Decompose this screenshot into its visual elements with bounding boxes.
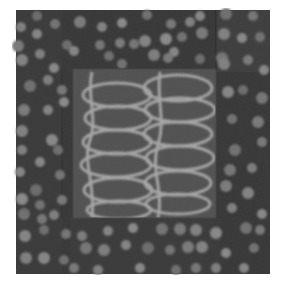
polka-dot (210, 227, 222, 239)
polka-dot (227, 114, 237, 124)
polka-dot (259, 65, 269, 75)
polka-dot (115, 38, 125, 48)
polka-dot (20, 252, 32, 264)
polka-dot (243, 55, 253, 65)
polka-dot (218, 58, 230, 70)
polka-dot (171, 265, 181, 275)
polka-dot (257, 137, 267, 147)
polka-dot (35, 49, 45, 59)
polka-dot (43, 105, 53, 115)
polka-dot (117, 59, 127, 69)
polka-dot (32, 11, 42, 21)
polka-dot (247, 163, 257, 173)
polka-dot (224, 164, 236, 176)
polka-dot (24, 80, 36, 92)
polka-dot (98, 244, 110, 256)
polka-dot (35, 200, 45, 210)
polka-dot (238, 85, 248, 95)
polka-dot (196, 241, 208, 253)
polka-dot (17, 145, 27, 155)
polka-dot (229, 144, 241, 156)
polka-dot (148, 49, 160, 61)
polka-dot (104, 51, 114, 61)
polka-dot (255, 32, 265, 42)
polka-dot (242, 187, 254, 199)
polka-dot (163, 53, 173, 63)
polka-dot (35, 157, 45, 167)
polka-dot (174, 223, 186, 235)
polka-dot (37, 214, 47, 224)
polka-dot (166, 19, 176, 29)
polka-dot (38, 252, 50, 264)
polka-dot (139, 35, 151, 47)
polka-dot (255, 225, 265, 235)
polka-dot (256, 92, 268, 104)
polka-dot (218, 28, 230, 40)
polka-dot (49, 210, 59, 220)
polka-dot (117, 18, 127, 28)
polka-dot (240, 222, 252, 234)
polka-dot (239, 263, 249, 273)
polka-dot (16, 22, 26, 32)
polka-dot (185, 17, 195, 27)
polka-dot (18, 208, 30, 220)
polka-dot (195, 11, 205, 21)
polka-dot (93, 265, 103, 275)
polka-dot (74, 16, 86, 28)
polka-dot (135, 263, 145, 273)
polka-dot (129, 39, 139, 49)
polka-dot (18, 104, 30, 116)
polka-dot (57, 85, 67, 95)
polka-dot (53, 145, 63, 155)
polka-dot (59, 97, 69, 107)
polka-dot (61, 229, 71, 239)
polka-dot (196, 27, 208, 39)
polka-dot (227, 203, 237, 213)
polka-dot (190, 224, 202, 236)
polka-dot (248, 11, 258, 21)
polka-dot (30, 184, 42, 196)
polka-dot (211, 263, 221, 273)
polka-dot (39, 225, 49, 235)
polka-dot (222, 86, 234, 98)
polka-dot (220, 8, 232, 20)
polka-dot (49, 63, 59, 73)
polka-dot (103, 226, 113, 236)
polka-dot (95, 40, 105, 50)
polka-dot (128, 223, 138, 233)
polka-dot (160, 33, 172, 45)
polka-dot (55, 170, 65, 180)
polka-dot (257, 209, 267, 219)
polka-dot (156, 223, 168, 235)
polka-dot (50, 19, 60, 29)
polka-dot (80, 242, 92, 254)
polka-dot (177, 32, 187, 42)
quilt (12, 8, 270, 275)
polka-dot (220, 180, 232, 192)
polka-dot (15, 167, 25, 177)
polka-dot (249, 243, 259, 253)
polka-dot (221, 248, 231, 258)
polka-dot (165, 245, 175, 255)
polka-dot (16, 193, 28, 205)
polka-dot (142, 242, 154, 254)
polka-dot (237, 33, 247, 43)
polka-dot (97, 22, 107, 32)
polka-dot (142, 10, 152, 20)
polka-dot (46, 134, 58, 146)
polka-dot (19, 230, 31, 242)
polka-dot (121, 240, 131, 250)
polka-dot (16, 125, 28, 137)
polka-dot (43, 75, 53, 85)
polka-dot (69, 46, 79, 56)
polka-dot (252, 116, 264, 128)
polka-dot (16, 54, 28, 66)
polka-dot (59, 255, 69, 265)
polka-dot (191, 263, 201, 273)
polka-dot (182, 241, 194, 253)
polka-dot (69, 263, 79, 273)
polka-dot (32, 29, 42, 39)
polka-dot (57, 195, 67, 205)
quilt-artwork (0, 0, 293, 302)
quilt-photo: Art quilt photograph: dark grey dotted b… (0, 0, 293, 302)
